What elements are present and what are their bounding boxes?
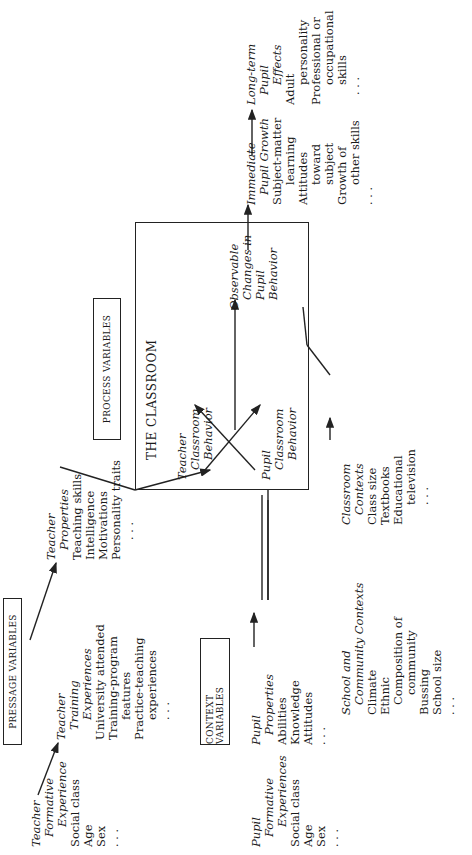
block-item: experiences xyxy=(146,624,159,740)
block-item: . . . xyxy=(123,460,136,560)
diagram-canvas: THE CLASSROOM PRESSAGE VARIABLES PROCESS… xyxy=(0,0,472,855)
context-variables-label: CONTEXT VARIABLES xyxy=(200,638,230,745)
block-item: . . . xyxy=(108,761,121,847)
teacher-classroom-behavior: Teacher Classroom Behavior xyxy=(176,408,215,480)
block-item: . . . xyxy=(315,674,328,745)
process-variables-label: PROCESS VARIABLES xyxy=(93,298,121,440)
school-and-community-contexts: School and Community Contexts Climate Et… xyxy=(340,583,457,715)
pupil-properties: Pupil Properties Abilities Knowledge Att… xyxy=(250,674,328,745)
pupil-classroom-behavior: Pupil Classroom Behavior xyxy=(260,408,299,480)
pressage-variables-label: PRESSAGE VARIABLES xyxy=(3,598,22,745)
block-title: Behavior xyxy=(202,408,215,480)
block-item: . . . xyxy=(159,624,172,740)
teacher-formative-experience: Teacher Formative Experience Social clas… xyxy=(30,761,121,847)
block-title: Behavior xyxy=(286,408,299,480)
block-item: . . . xyxy=(362,118,375,205)
classroom-title: THE CLASSROOM xyxy=(145,339,159,460)
long-term-pupil-effects: Long-term Pupil Effects Adult personalit… xyxy=(245,10,362,105)
classroom-contexts: Classroom Contexts Class size Textbooks … xyxy=(340,449,431,525)
block-item: . . . xyxy=(444,583,457,715)
block-item: . . . xyxy=(328,755,341,847)
block-item: Personality traits xyxy=(110,460,123,560)
block-item: School size xyxy=(431,583,444,715)
teacher-training-experiences: Teacher Training Experiences University … xyxy=(55,624,172,740)
block-title: Behavior xyxy=(267,235,280,310)
pupil-formative-experiences: Pupil Formative Experiences Social class… xyxy=(250,755,341,847)
block-item: . . . xyxy=(418,449,431,525)
teacher-properties: Teacher Properties Teaching skills Intel… xyxy=(45,460,136,560)
block-item: . . . xyxy=(349,10,362,105)
observable-changes-in-pupil-behavior: Observable Changes in Pupil Behavior xyxy=(228,235,280,310)
immediate-pupil-growth: Immediate Pupil Growth Subject-matter le… xyxy=(245,118,375,205)
